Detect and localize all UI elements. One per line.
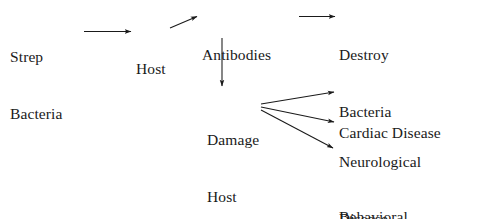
pathway-diagram: Strep Bacteria Host Antibodies Destroy B…	[0, 0, 488, 219]
node-strep-bacteria-line-1: Strep	[10, 47, 62, 66]
edge-damage-to-cardiac	[261, 92, 334, 104]
node-damage-host-line-1: Damage	[207, 130, 259, 149]
node-antibodies-line-1: Antibodies	[202, 45, 271, 64]
node-damage-host: Damage Host	[207, 92, 259, 219]
node-damage-host-line-2: Host	[207, 187, 259, 206]
node-host-line-1: Host	[136, 59, 166, 78]
node-antibodies: Antibodies	[202, 7, 271, 102]
node-strep-bacteria: Strep Bacteria	[10, 9, 62, 161]
edge-host-to-antibodies	[170, 17, 197, 29]
node-behavioral-disorders-line-1: Behavioral	[339, 207, 408, 219]
node-behavioral-disorders: Behavioral Disorders	[339, 169, 408, 219]
edge-damage-to-neurological	[261, 107, 334, 122]
node-strep-bacteria-line-2: Bacteria	[10, 104, 62, 123]
node-host: Host	[136, 21, 166, 116]
node-destroy-bacteria-line-1: Destroy	[339, 45, 391, 64]
edge-damage-to-behavioral	[261, 110, 333, 148]
